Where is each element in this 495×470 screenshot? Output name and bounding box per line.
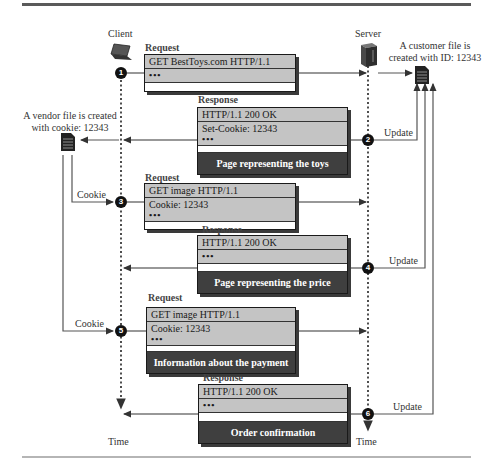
request-5-box: GET image HTTP/1.1 Cookie: 12343 ••• Inf… [146,307,296,374]
update-label-4: Update [389,255,418,266]
response-2-set-cookie: Set-Cookie: 12343 [198,122,347,135]
response-4-box: HTTP/1.1 200 OK ••• Page representing th… [197,235,348,294]
response-6-blank [199,413,347,422]
cookie-label-5: Cookie [75,318,104,329]
client-time-label: Time [108,436,129,447]
server-icon [360,42,378,68]
request-3-box: GET image HTTP/1.1 Cookie: 12343 ••• [144,183,296,230]
customer-file-icon [415,66,430,85]
response-6-dots: ••• [199,399,347,413]
response-6-heading: Response [203,372,243,383]
response-4-status: HTTP/1.1 200 OK [198,236,347,250]
update-label-2: Update [384,127,413,138]
vendor-file-caption-line1: A vendor file is created [20,110,120,122]
response-2-heading: Response [198,94,238,105]
response-2-body: Page representing the toys [198,153,347,174]
response-6-body: Order confirmation [199,422,347,443]
update-label-6: Update [393,401,422,412]
request-5-dots: ••• [147,335,295,346]
response-6-status: HTTP/1.1 200 OK [199,385,347,399]
request-5-cookie: Cookie: 12343 [147,322,295,335]
step-3-marker: 3 [115,196,127,208]
step-6-marker: 6 [362,408,374,420]
customer-file-caption-line1: A customer file is [385,40,485,52]
response-2-box: HTTP/1.1 200 OK Set-Cookie: 12343 ••• Pa… [197,107,348,175]
client-label: Client [108,28,132,39]
request-1-heading: Request [145,42,179,53]
step-2-marker: 2 [362,134,374,146]
request-1-box: GET BestToys.com HTTP/1.1 ••• [144,54,296,92]
step-5-marker: 5 [115,325,127,337]
laptop-icon [110,43,134,63]
customer-file-caption: A customer file is created with ID: 1234… [385,40,485,64]
vendor-file-caption: A vendor file is created with cookie: 12… [20,110,120,134]
request-3-dots: ••• [145,211,295,222]
response-2-blank [198,146,347,153]
request-1-dots: ••• [145,69,295,83]
cookie-label-3: Cookie [77,189,106,200]
request-5-line: GET image HTTP/1.1 [147,308,295,322]
request-3-cookie: Cookie: 12343 [145,198,295,211]
request-1-line: GET BestToys.com HTTP/1.1 [145,55,295,69]
server-time-label: Time [356,436,377,447]
vendor-file-icon [61,133,76,152]
request-5-heading: Request [148,292,182,303]
request-3-line: GET image HTTP/1.1 [145,184,295,198]
response-4-blank [198,264,347,272]
response-2-dots: ••• [198,135,347,146]
customer-file-caption-line2: created with ID: 12343 [385,52,485,64]
request-5-body: Information about the payment [147,352,295,373]
response-4-dots: ••• [198,250,347,264]
step-1-marker: 1 [115,67,127,79]
response-6-box: HTTP/1.1 200 OK ••• Order confirmation [198,384,348,444]
response-2-status: HTTP/1.1 200 OK [198,108,347,122]
response-4-heading: Response [202,224,242,235]
request-3-heading: Request [145,172,179,183]
response-4-body: Page representing the price [198,272,347,293]
server-label: Server [355,28,381,39]
request-1-blank [145,83,295,91]
step-4-marker: 4 [362,262,374,274]
